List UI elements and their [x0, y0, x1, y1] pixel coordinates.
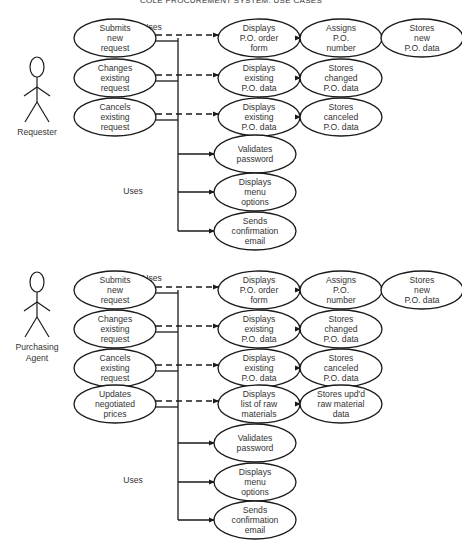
- use-case-label: P.O. data: [404, 43, 439, 53]
- use-case-label: Cancels: [99, 353, 130, 363]
- use-case-label: Displays: [243, 389, 275, 399]
- use-case-label: data: [333, 409, 350, 419]
- use-case-label: Changes: [98, 63, 132, 73]
- use-case-label: P.O. data: [241, 122, 276, 132]
- use-case-label: P.O. data: [323, 83, 358, 93]
- use-case-chain-item: StorescanceledP.O. data: [300, 349, 382, 387]
- uses-label: Uses: [123, 475, 143, 485]
- actor-label: Agent: [26, 353, 49, 363]
- use-case-label: new: [414, 33, 431, 43]
- use-case-label: Displays: [243, 275, 275, 285]
- use-case-label: existing: [100, 363, 129, 373]
- use-case-label: existing: [100, 112, 129, 122]
- use-case-label: existing: [244, 363, 273, 373]
- use-case-label: Displays: [243, 314, 275, 324]
- use-case-label: P.O. order: [240, 285, 279, 295]
- uses-label: Uses: [123, 186, 143, 196]
- actor-stick-figure: PurchasingAgent: [16, 272, 59, 363]
- use-case-label: changed: [325, 73, 358, 83]
- use-case-label: P.O.: [333, 285, 349, 295]
- use-case-label: P.O.: [333, 33, 349, 43]
- use-case-label: canceled: [324, 112, 359, 122]
- use-case-changes: Changesexistingrequest: [74, 59, 156, 97]
- actor-stick-figure: Requester: [17, 57, 57, 137]
- use-case-changes: Changesexistingrequest: [74, 310, 156, 348]
- use-case-label: raw material: [318, 399, 365, 409]
- use-case-label: new: [107, 285, 124, 295]
- use-case-label: Stores: [329, 353, 354, 363]
- use-case-chain-item: DisplaysP.O. orderform: [218, 19, 300, 57]
- use-case-label: request: [101, 43, 130, 53]
- use-case-diagram: RequesterUsesUsesSubmitsnewrequestDispla…: [0, 0, 462, 546]
- use-case-label: Stores: [329, 63, 354, 73]
- use-case-label: Assigns: [326, 275, 356, 285]
- use-case-label: Validates: [238, 144, 273, 154]
- use-case-label: request: [101, 373, 130, 383]
- use-case-label: Sends: [243, 505, 267, 515]
- use-case-chain-item: DisplaysexistingP.O. data: [218, 310, 300, 348]
- use-case-chain-item: StoresnewP.O. data: [381, 271, 462, 309]
- use-case-label: list of raw: [241, 399, 278, 409]
- use-case-label: Stores upd'd: [317, 389, 365, 399]
- use-case-label: form: [250, 43, 267, 53]
- use-case-chain-item: DisplaysexistingP.O. data: [218, 59, 300, 97]
- use-case-label: existing: [244, 324, 273, 334]
- use-case-label: form: [250, 295, 267, 305]
- use-case-shared: Displaysmenuoptions: [214, 173, 296, 211]
- use-case-chain-item: Stores upd'draw materialdata: [300, 385, 382, 423]
- use-case-label: request: [101, 83, 130, 93]
- use-case-chain-item: DisplaysP.O. orderform: [218, 271, 300, 309]
- use-case-label: Cancels: [99, 102, 130, 112]
- use-case-label: existing: [100, 73, 129, 83]
- use-case-label: P.O. order: [240, 33, 279, 43]
- use-case-label: request: [101, 295, 130, 305]
- use-case-label: Changes: [98, 314, 132, 324]
- use-case-label: P.O. data: [323, 373, 358, 383]
- use-case-label: P.O. data: [404, 295, 439, 305]
- use-case-label: Stores: [329, 102, 354, 112]
- use-case-label: Updates: [99, 389, 131, 399]
- use-case-label: confirmation: [232, 515, 279, 525]
- actor-label: Purchasing: [16, 342, 59, 352]
- actor-label: Requester: [17, 127, 57, 137]
- use-case-label: menu: [244, 477, 266, 487]
- use-case-label: Submits: [99, 23, 130, 33]
- use-case-label: changed: [325, 324, 358, 334]
- use-case-label: email: [245, 236, 266, 246]
- use-case-cancels: Cancelsexistingrequest: [74, 98, 156, 136]
- use-case-shared: Displaysmenuoptions: [214, 463, 296, 501]
- use-case-chain-item: StoresnewP.O. data: [381, 19, 462, 57]
- use-case-label: prices: [104, 409, 127, 419]
- use-case-label: Displays: [243, 102, 275, 112]
- use-case-label: email: [245, 525, 266, 535]
- use-case-label: number: [326, 43, 355, 53]
- use-case-label: Displays: [243, 23, 275, 33]
- use-case-chain-item: DisplaysexistingP.O. data: [218, 349, 300, 387]
- use-case-label: Sends: [243, 216, 267, 226]
- use-case-label: Displays: [239, 467, 271, 477]
- use-case-label: request: [101, 122, 130, 132]
- use-case-updates: Updatesnegotiatedprices: [74, 385, 156, 423]
- use-case-label: Displays: [243, 353, 275, 363]
- use-case-label: request: [101, 334, 130, 344]
- use-case-label: new: [414, 285, 431, 295]
- use-case-label: Submits: [99, 275, 130, 285]
- use-case-shared: Validatespassword: [214, 135, 296, 173]
- use-case-label: Assigns: [326, 23, 356, 33]
- use-case-label: Stores: [329, 314, 354, 324]
- use-case-submits: Submitsnewrequest: [74, 19, 156, 57]
- actor-head-icon: [30, 272, 44, 292]
- use-case-submits: Submitsnewrequest: [74, 271, 156, 309]
- use-case-chain-item: AssignsP.O.number: [300, 19, 382, 57]
- use-case-chain-item: StoreschangedP.O. data: [300, 59, 382, 97]
- use-case-shared: Validatespassword: [214, 424, 296, 462]
- use-case-label: P.O. data: [323, 334, 358, 344]
- use-case-label: P.O. data: [241, 83, 276, 93]
- actor-head-icon: [30, 57, 44, 77]
- use-case-chain-item: StoreschangedP.O. data: [300, 310, 382, 348]
- use-case-label: confirmation: [232, 226, 279, 236]
- use-case-label: existing: [244, 73, 273, 83]
- use-case-label: P.O. data: [323, 122, 358, 132]
- use-case-label: Displays: [239, 177, 271, 187]
- use-case-label: canceled: [324, 363, 359, 373]
